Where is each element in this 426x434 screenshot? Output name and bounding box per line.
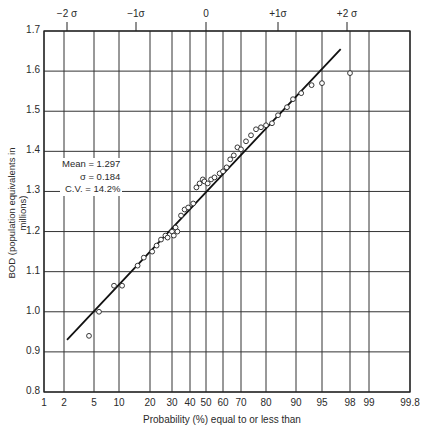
data-point [150, 249, 155, 254]
data-point [205, 181, 210, 186]
x-tick-label: 40 [184, 398, 195, 408]
data-point [231, 153, 236, 158]
data-point [141, 255, 146, 260]
y-tick-label: 1.0 [12, 306, 40, 316]
data-point [171, 233, 176, 238]
data-point [291, 97, 296, 102]
plot-frame [44, 31, 410, 392]
data-point [154, 243, 159, 248]
sigma-tick-label: +2 σ [337, 9, 357, 19]
x-axis-label: Probability (%) equal to or less than [0, 414, 426, 425]
x-tick-label: 98 [344, 398, 355, 408]
x-tick-label: 99 [363, 398, 374, 408]
data-point [191, 201, 196, 206]
data-point [175, 229, 180, 234]
y-tick-label: 1.3 [12, 185, 40, 195]
data-point [112, 283, 117, 288]
statistics-annotation: Mean = 1.297 σ = 0.184 C.V. = 14.2% [60, 158, 122, 196]
data-point [159, 237, 164, 242]
data-point [285, 105, 290, 110]
data-point [249, 133, 254, 138]
y-tick-label: 1.6 [12, 65, 40, 75]
sigma-tick-label: 0 [203, 9, 209, 19]
sigma-tick-label: −2 σ [57, 9, 77, 19]
x-tick-label: 10 [113, 398, 124, 408]
y-tick-label: 0.9 [12, 346, 40, 356]
data-point [120, 283, 125, 288]
data-point [264, 123, 269, 128]
data-point [254, 127, 259, 132]
x-tick-label: 80 [260, 398, 271, 408]
cv-text: C.V. = 14.2% [62, 183, 120, 196]
data-point [348, 71, 353, 76]
y-tick-label: 1.7 [12, 25, 40, 35]
x-tick-label: 20 [144, 398, 155, 408]
sigma-tick-label: +1σ [269, 9, 287, 19]
data-point [186, 205, 191, 210]
data-point [221, 169, 226, 174]
data-point [224, 165, 229, 170]
x-tick-label: 99.8 [400, 398, 419, 408]
x-tick-label: 2 [61, 398, 67, 408]
y-tick-label: 0.8 [12, 386, 40, 396]
data-point [309, 83, 314, 88]
data-point [244, 139, 249, 144]
data-point [228, 157, 233, 162]
data-point [239, 147, 244, 152]
x-tick-label: 90 [290, 398, 301, 408]
x-tick-label: 70 [235, 398, 246, 408]
y-tick-label: 1.1 [12, 266, 40, 276]
x-tick-label: 1 [41, 398, 47, 408]
data-point [179, 213, 184, 218]
data-point [270, 121, 275, 126]
sigma-tick-label: −1σ [127, 9, 145, 19]
x-tick-label: 95 [316, 398, 327, 408]
y-tick-label: 1.2 [12, 226, 40, 236]
probability-plot [0, 0, 426, 434]
data-point [212, 175, 217, 180]
data-point [259, 125, 264, 130]
x-tick-label: 50 [200, 398, 211, 408]
data-point [135, 263, 140, 268]
mean-text: Mean = 1.297 [62, 158, 120, 171]
data-point [165, 235, 170, 240]
data-point [299, 91, 304, 96]
x-tick-label: 60 [217, 398, 228, 408]
sigma-text: σ = 0.184 [62, 171, 120, 184]
data-point [276, 113, 281, 118]
y-tick-label: 1.4 [12, 145, 40, 155]
y-tick-label: 1.5 [12, 105, 40, 115]
data-point [320, 81, 325, 86]
data-point [87, 333, 92, 338]
x-tick-label: 30 [166, 398, 177, 408]
data-point [97, 309, 102, 314]
x-tick-label: 5 [91, 398, 97, 408]
